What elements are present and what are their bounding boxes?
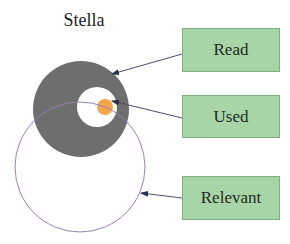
venn-diagram: Stella Read Used Relevant <box>0 0 290 244</box>
relevant-label: Relevant <box>201 188 261 208</box>
used-label-box: Used <box>182 95 280 138</box>
read-label: Read <box>214 40 249 60</box>
read-arrow <box>112 54 182 74</box>
used-label: Used <box>214 107 249 127</box>
relevant-arrow <box>141 193 182 198</box>
diagram-title: Stella <box>60 10 108 31</box>
read-label-box: Read <box>182 28 280 72</box>
relevant-label-box: Relevant <box>182 176 280 220</box>
